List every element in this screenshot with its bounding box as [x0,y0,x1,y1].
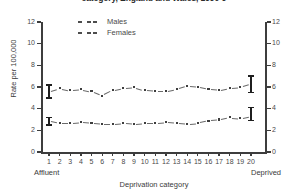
x-axis-title: Deprivation category [0,180,308,189]
series-segment [158,122,164,124]
data-point [59,122,61,124]
series-segment [73,122,79,124]
series-segment [232,118,238,120]
data-point [176,122,178,124]
error-bar-cap [46,124,53,126]
series-segment [147,123,153,124]
x-axis-right-annotation: Deprived [251,168,281,177]
chart-plot-area: 024681012 024681012 12345678910111213141… [0,0,308,196]
legend-item-males: Males [78,12,136,23]
data-point [229,116,231,118]
series-segment [200,121,206,123]
legend-dashed-line-icon [78,29,104,36]
data-point [154,122,156,124]
series-segment [136,123,142,125]
series-segment [168,122,174,124]
data-point [90,122,92,124]
error-bar-cap [46,117,53,119]
data-point [80,121,82,123]
series-segment [126,123,132,125]
data-point [186,123,188,125]
series-segment [83,122,89,124]
series-segment [189,123,195,125]
error-bar-cap [248,107,255,109]
series-segment [94,123,100,125]
error-bar-cap [248,120,255,122]
data-point [133,123,135,125]
data-point [218,118,220,120]
legend-item-females: Females [78,23,136,34]
series-segment [243,117,249,119]
data-point [101,123,103,125]
data-point [112,123,114,125]
series-segment [51,121,57,123]
y-axis-title: Rate per 100,000 [9,23,18,115]
series-segment [211,120,217,122]
series-segment [221,118,227,120]
chart-legend: Males Females [78,12,136,34]
series-segment [179,123,185,125]
x-axis-left-annotation: Affluent [34,168,59,177]
data-point [197,122,199,124]
data-point [239,117,241,119]
error-bar-line [250,108,252,121]
data-point [122,122,124,124]
series-segment [104,124,110,125]
legend-label-females: Females [107,28,136,37]
data-point [207,120,209,122]
series-segment [62,123,68,124]
data-point [165,121,167,123]
series-females [0,0,308,196]
series-segment [115,123,121,125]
data-point [144,122,146,124]
data-point [69,122,71,124]
